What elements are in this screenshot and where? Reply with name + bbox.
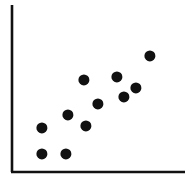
data-point[interactable]: [36, 148, 47, 159]
scatter-plot-figure: Scatter plot with eleven black circular …: [0, 0, 185, 185]
data-point[interactable]: [80, 120, 91, 131]
data-point[interactable]: [118, 91, 129, 102]
data-point[interactable]: [36, 122, 47, 133]
data-points-layer: [0, 0, 185, 185]
data-point[interactable]: [144, 50, 155, 61]
data-point[interactable]: [111, 71, 122, 82]
data-point[interactable]: [78, 74, 89, 85]
plot-area: [0, 0, 185, 185]
data-point[interactable]: [92, 98, 103, 109]
data-point[interactable]: [62, 109, 73, 120]
data-point[interactable]: [60, 148, 71, 159]
data-point[interactable]: [130, 82, 141, 93]
